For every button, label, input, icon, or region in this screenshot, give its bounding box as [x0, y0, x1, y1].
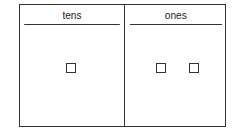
- place-value-chart: tens ones: [19, 4, 226, 127]
- ones-block-icon: [156, 63, 166, 73]
- tens-block-icon: [66, 63, 76, 73]
- ones-body: [126, 26, 226, 127]
- tens-body: [20, 26, 124, 127]
- tens-header: tens: [24, 5, 120, 25]
- ones-header: ones: [129, 5, 221, 25]
- tens-column: tens: [20, 5, 125, 126]
- ones-column: ones: [126, 5, 226, 126]
- ones-block-icon: [189, 63, 199, 73]
